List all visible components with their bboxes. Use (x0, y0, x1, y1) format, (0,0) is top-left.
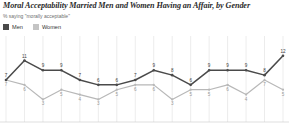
data-point-label: 9 (226, 63, 229, 68)
data-point (208, 89, 210, 91)
data-point (42, 98, 44, 100)
data-point-label: 6 (23, 87, 26, 92)
data-point-label: 4 (79, 97, 82, 102)
data-point-label: 5 (116, 92, 119, 97)
data-point-label: 6 (189, 78, 192, 83)
chart-subtitle: % saying "morally acceptable" (3, 13, 70, 20)
legend-item-women: Women (33, 24, 61, 30)
data-point (23, 84, 25, 86)
data-point-label: 8 (263, 68, 266, 73)
legend-item-men: Men (3, 24, 23, 30)
data-point (116, 84, 119, 87)
series-labels-men: 711997667986999812 (5, 49, 286, 83)
data-point-label: 8 (171, 68, 174, 73)
page-title: Moral Acceptability Married Men and Wome… (3, 1, 287, 11)
data-point (263, 79, 265, 81)
data-point-label: 9 (152, 63, 155, 68)
data-point-label: 7 (5, 73, 8, 78)
data-point-label: 6 (226, 87, 229, 92)
grid-lines (6, 36, 283, 122)
data-point (282, 54, 285, 57)
legend-swatch-women (33, 24, 39, 30)
series-line-women (6, 80, 283, 99)
data-point (79, 79, 82, 82)
data-point (245, 93, 247, 95)
data-point-label: 7 (79, 73, 82, 78)
data-point (171, 74, 174, 77)
data-point (79, 93, 81, 95)
data-point (189, 84, 192, 87)
data-point-label: 7 (134, 73, 137, 78)
series-line-men (6, 56, 283, 85)
chart-legend: Men Women (3, 24, 61, 30)
data-point (227, 84, 229, 86)
line-chart-svg: 7635435663556475 711997667986999812 (0, 36, 289, 130)
data-point-label: 6 (116, 78, 119, 83)
data-point (134, 84, 136, 86)
plot-area: 7635435663556475 711997667986999812 (0, 36, 289, 130)
data-point (226, 69, 229, 72)
data-point-label: 6 (97, 78, 100, 83)
data-point (263, 74, 266, 77)
data-point-label: 7 (263, 82, 266, 87)
data-point (245, 69, 248, 72)
data-point-label: 5 (208, 92, 211, 97)
data-point (60, 69, 63, 72)
data-point (5, 79, 8, 82)
data-point-label: 3 (171, 101, 174, 106)
data-point (153, 84, 155, 86)
data-point (42, 69, 45, 72)
data-point-label: 5 (189, 92, 192, 97)
data-point (60, 89, 62, 91)
data-point-label: 6 (152, 87, 155, 92)
data-point (208, 69, 211, 72)
data-point-label: 6 (134, 87, 137, 92)
data-point (97, 84, 100, 87)
legend-label-women: Women (42, 24, 61, 30)
data-point-label: 9 (60, 63, 63, 68)
data-point-label: 11 (22, 54, 27, 59)
data-point-label: 4 (245, 97, 248, 102)
data-point-label: 3 (42, 101, 45, 106)
data-point-label: 9 (42, 63, 45, 68)
data-point-label: 3 (97, 101, 100, 106)
data-point (23, 59, 26, 62)
data-point-label: 9 (245, 63, 248, 68)
data-point-label: 12 (280, 49, 286, 54)
data-point-label: 5 (60, 92, 63, 97)
legend-label-men: Men (12, 24, 23, 30)
data-point (190, 89, 192, 91)
chart-page: Moral Acceptability Married Men and Wome… (0, 0, 289, 130)
data-point (134, 79, 137, 82)
legend-swatch-men (3, 24, 9, 30)
data-point (97, 98, 99, 100)
data-point-label: 5 (282, 92, 285, 97)
data-point (282, 89, 284, 91)
data-point (116, 89, 118, 91)
series-labels-women: 7635435663556475 (5, 82, 285, 106)
data-point-label: 7 (5, 82, 8, 87)
data-point (171, 98, 173, 100)
data-point (152, 69, 155, 72)
data-point-label: 9 (208, 63, 211, 68)
